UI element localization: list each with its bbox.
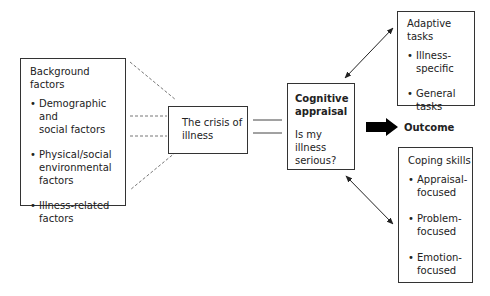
dashed-connector-bottom: [130, 152, 176, 190]
outcome-label: Outcome: [404, 122, 454, 133]
cognitive-appraisal-title-line1: Cognitive: [295, 92, 354, 105]
appraisal-question-line2: serious?: [295, 154, 354, 167]
coping-skills-title: Coping skills: [408, 154, 472, 167]
list-item: Illness- specific: [407, 49, 474, 75]
list-item: Appraisal- focused: [408, 173, 472, 199]
adaptive-tasks-list: Illness- specific General tasks: [407, 49, 474, 113]
background-factors-box: Background factors Demographic and socia…: [20, 58, 126, 206]
outcome-arrow-icon: [366, 118, 398, 136]
coping-skills-list: Appraisal- focused Problem- focused Emot…: [408, 173, 472, 277]
outcome: Outcome: [366, 118, 454, 136]
cognitive-appraisal-box: Cognitive appraisal Is my illness seriou…: [287, 83, 355, 170]
crisis-of-illness-box: The crisis of illness: [168, 106, 248, 154]
list-item: General tasks: [407, 87, 474, 113]
appraisal-question-line1: Is my illness: [295, 128, 354, 154]
crisis-label-line2: illness: [182, 129, 247, 142]
list-item: Emotion- focused: [408, 251, 472, 277]
arrow-to-coping-skills: [346, 176, 393, 224]
background-factors-title: Background factors: [30, 65, 119, 91]
cognitive-appraisal-title-line2: appraisal: [295, 105, 354, 118]
background-factors-list: Demographic and social factors Physical/…: [30, 97, 119, 225]
crisis-label-line1: The crisis of: [182, 116, 247, 129]
list-item: Physical/social environmental factors: [30, 148, 119, 187]
coping-skills-box: Coping skills Appraisal- focused Problem…: [398, 147, 473, 283]
arrow-to-adaptive-tasks: [345, 28, 393, 78]
list-item: Illness-related factors: [30, 199, 119, 225]
adaptive-tasks-title: Adaptive tasks: [407, 17, 474, 43]
dashed-connector-top: [130, 62, 176, 100]
adaptive-tasks-box: Adaptive tasks Illness- specific General…: [397, 11, 475, 106]
list-item: Demographic and social factors: [30, 97, 119, 136]
list-item: Problem- focused: [408, 212, 472, 238]
